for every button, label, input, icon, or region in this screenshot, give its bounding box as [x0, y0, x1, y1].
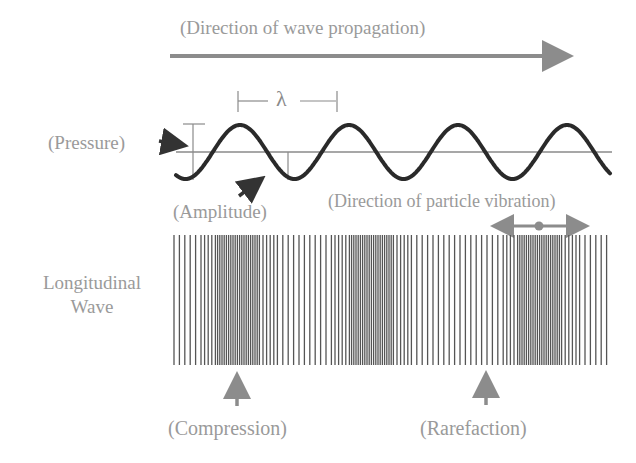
- particle-vibration-arrow-icon: [496, 222, 584, 231]
- pressure-pointer-arrow-icon: [159, 141, 182, 145]
- wavelength-bracket: [238, 91, 337, 112]
- wave-diagram-graphics: [0, 0, 636, 463]
- longitudinal-wave-bars: [174, 235, 607, 365]
- amplitude-pointer-arrow-icon: [239, 180, 260, 196]
